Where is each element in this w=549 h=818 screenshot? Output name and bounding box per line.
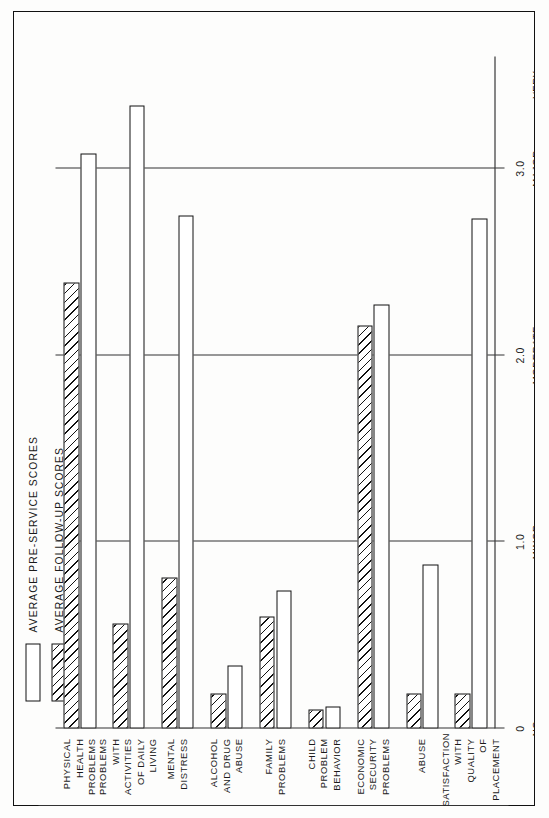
scale-anchor-label: MINOR PROBLEMS <box>529 512 535 570</box>
category-label: FAMILY PROBLEMS <box>263 732 288 806</box>
bar-pre-service <box>325 706 341 728</box>
tick-mark <box>495 540 504 541</box>
bar-follow-up <box>406 693 422 728</box>
figure-page: AVERAGE PRE-SERVICE SCORESAVERAGE FOLLOW… <box>0 0 549 818</box>
category-label: ECONOMIC SECURITY PROBLEMS <box>354 732 392 806</box>
bar-group <box>55 56 104 728</box>
bar-follow-up <box>357 325 373 728</box>
bar-group <box>348 56 397 728</box>
bar-follow-up <box>112 623 128 728</box>
scale-anchor-label: MODERATE PROBLEMS <box>529 326 535 384</box>
bar-group <box>397 56 446 728</box>
legend-item: AVERAGE PRE-SERVICE SCORES <box>25 436 40 701</box>
legend-swatch-open <box>25 643 40 701</box>
bar-follow-up <box>259 616 275 728</box>
scale-anchor-label: NO PROBLEM <box>529 703 535 754</box>
scale-anchor-label: VERY SEVERE PROBLEMS <box>529 55 535 113</box>
bar-group <box>202 56 251 728</box>
category-label: ABUSE <box>415 732 428 806</box>
tick-label: 3.0 <box>513 160 525 176</box>
bar-follow-up <box>454 693 470 728</box>
bar-chart: AVERAGE PRE-SERVICE SCORESAVERAGE FOLLOW… <box>13 11 535 806</box>
bar-follow-up <box>308 709 324 728</box>
bar-group <box>104 56 153 728</box>
bar-group <box>299 56 348 728</box>
tick-mark <box>495 727 504 728</box>
bar-pre-service <box>276 590 292 728</box>
bar-follow-up <box>210 693 226 728</box>
category-label: CHILD PROBLEM BEHAVIOR <box>305 732 343 806</box>
bar-pre-service <box>129 105 145 728</box>
plot-area: 01.02.03.0 <box>55 56 495 728</box>
tick-mark <box>495 167 504 168</box>
rotated-chart-wrapper: AVERAGE PRE-SERVICE SCORESAVERAGE FOLLOW… <box>13 11 535 806</box>
tick-label: 1.0 <box>513 533 525 549</box>
bar-follow-up <box>161 577 177 728</box>
bar-pre-service <box>80 153 96 728</box>
bar-pre-service <box>373 304 389 728</box>
tick-mark <box>495 354 504 355</box>
bar-group <box>446 56 495 728</box>
tick-label: 2.0 <box>513 346 525 362</box>
bar-group <box>251 56 300 728</box>
bar-pre-service <box>227 665 243 728</box>
tick-label: 0 <box>513 725 525 731</box>
category-label: ALCOHOL AND DRUG ABUSE <box>207 732 245 806</box>
bar-follow-up <box>63 282 79 728</box>
bar-pre-service <box>471 218 487 728</box>
category-label: PHYSICAL HEALTH PROBLEMS <box>61 732 99 806</box>
bar-pre-service <box>178 215 194 728</box>
category-label: SATISFACTION WITH QUALITY OF PLACEMENT <box>439 732 502 806</box>
category-label: PROBLEMS WITH ACTIVITIES OF DAILY LIVING <box>97 732 160 806</box>
category-label: MENTAL DISTRESS <box>165 732 190 806</box>
legend-label: AVERAGE PRE-SERVICE SCORES <box>27 436 38 632</box>
bar-group <box>153 56 202 728</box>
scale-anchor-label: MAJOR PROBLEMS <box>529 139 535 197</box>
bar-pre-service <box>422 564 438 728</box>
